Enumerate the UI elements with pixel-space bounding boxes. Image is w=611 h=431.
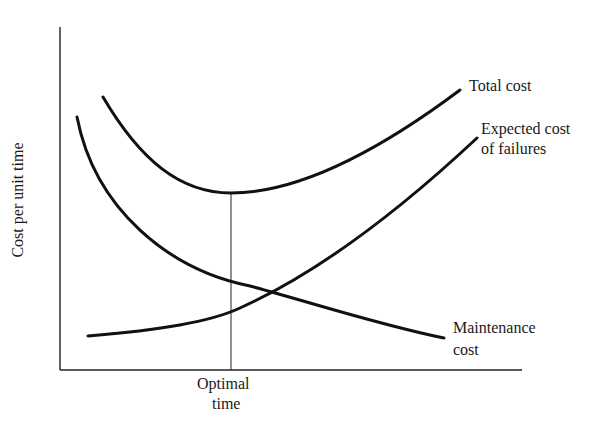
maintenance-label-line1: Maintenance <box>453 318 536 337</box>
optimal-label-line2: time <box>212 394 240 413</box>
maintenance-cost-curve <box>77 117 444 338</box>
total-cost-label: Total cost <box>469 76 531 95</box>
failures-label-line1: Expected cost <box>481 119 570 138</box>
optimal-label-line1: Optimal <box>197 374 249 393</box>
maintenance-label-line2: cost <box>453 340 479 359</box>
failures-label-line2: of failures <box>481 139 546 158</box>
y-axis-label-text: Cost per unit time <box>9 142 27 257</box>
chart-canvas <box>0 0 611 431</box>
total-cost-curve <box>103 90 460 193</box>
